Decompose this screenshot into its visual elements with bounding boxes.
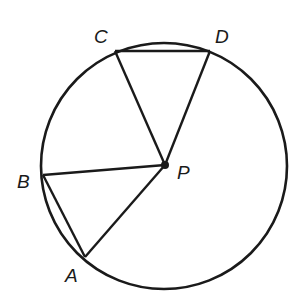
label-b: B bbox=[17, 171, 30, 192]
label-d: D bbox=[215, 26, 229, 47]
radius-pc bbox=[115, 51, 165, 165]
radius-pa bbox=[85, 165, 165, 257]
label-p: P bbox=[177, 162, 190, 183]
radius-pb bbox=[43, 165, 165, 175]
chord-ab bbox=[43, 175, 85, 257]
label-a: A bbox=[64, 265, 78, 286]
center-point-p bbox=[161, 161, 169, 169]
label-c: C bbox=[94, 26, 108, 47]
circle-diagram: C D B A P bbox=[0, 0, 305, 295]
radius-pd bbox=[165, 51, 210, 165]
